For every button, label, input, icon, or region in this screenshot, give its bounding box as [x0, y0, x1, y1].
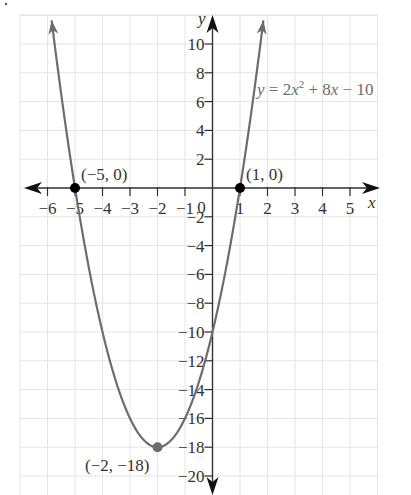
- x-tick-label: 2: [263, 199, 272, 218]
- y-axis-label: y: [196, 9, 206, 28]
- y-tick-label: −8: [186, 294, 204, 313]
- x-tick-label: −5: [66, 199, 84, 218]
- point-label: (−5, 0): [81, 165, 127, 184]
- x-tick-label: 4: [318, 199, 327, 218]
- y-tick-label: −14: [178, 381, 205, 400]
- parabola-graph: xy −6−5−4−3−2−1123450108642−2−4−6−8−10−1…: [0, 0, 411, 495]
- bullet-dot: [5, 3, 7, 5]
- x-tick-label: −6: [38, 199, 56, 218]
- x-tick-label: −4: [93, 199, 112, 218]
- point-marker: [70, 183, 80, 193]
- x-axis-label: x: [367, 193, 376, 212]
- point-marker: [235, 183, 245, 193]
- x-tick-label: 5: [346, 199, 355, 218]
- x-tick-label: 3: [291, 199, 300, 218]
- y-tick-label: 6: [196, 93, 205, 112]
- x-tick-label: −2: [148, 199, 166, 218]
- y-tick-label: 4: [196, 121, 205, 140]
- y-tick-label: −6: [186, 265, 204, 284]
- y-tick-label: 2: [196, 150, 205, 169]
- y-tick-label: −10: [178, 323, 205, 342]
- y-tick-label: 8: [196, 64, 205, 83]
- y-tick-label: 10: [188, 35, 205, 54]
- point-marker: [153, 442, 163, 452]
- point-label: (1, 0): [246, 165, 283, 184]
- y-tick-label: −20: [178, 467, 205, 486]
- equation-label: y = 2x2 + 8x − 10: [255, 78, 373, 99]
- point-label: (−2, −18): [85, 456, 150, 475]
- y-tick-label: −12: [178, 352, 205, 371]
- y-tick-label: −2: [186, 208, 204, 227]
- y-tick-label: −4: [186, 237, 205, 256]
- x-tick-label: −3: [121, 199, 139, 218]
- y-tick-label: −18: [178, 438, 205, 457]
